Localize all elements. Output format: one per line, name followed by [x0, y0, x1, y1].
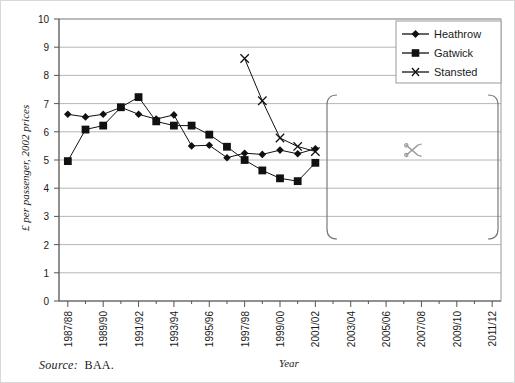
y-tick-label: 10 — [38, 14, 50, 25]
y-tick-label: 5 — [43, 155, 49, 166]
square-marker-icon — [258, 167, 266, 175]
square-marker-icon — [135, 93, 143, 101]
square-marker-icon — [223, 143, 231, 151]
x-tick-label: 1989/90 — [98, 311, 109, 348]
square-marker-icon — [82, 126, 90, 134]
square-marker-icon — [412, 49, 420, 57]
diamond-marker-icon — [276, 146, 284, 154]
x-tick-label: 2003/04 — [346, 311, 357, 348]
scissors-icon[interactable] — [405, 144, 422, 157]
cross-marker-icon — [276, 134, 284, 142]
diamond-marker-icon — [188, 142, 196, 150]
y-tick-label: 4 — [43, 183, 49, 194]
x-tick-label: 1995/96 — [204, 311, 215, 348]
diamond-marker-icon — [294, 150, 302, 158]
diamond-marker-icon — [99, 111, 107, 119]
x-tick-label: 2001/02 — [310, 311, 321, 348]
bracket-right — [488, 95, 498, 239]
x-tick-label: 2007/08 — [416, 311, 427, 348]
x-tick-label: 2011/12 — [487, 311, 498, 347]
diamond-marker-icon — [135, 111, 143, 119]
x-axis-title: Year — [279, 357, 299, 369]
source-prefix: Source: — [39, 358, 78, 372]
x-tick-label: 1997/98 — [240, 311, 251, 348]
diamond-marker-icon — [206, 142, 214, 150]
figure-frame: 10 9 8 7 6 5 4 3 2 1 0 1987/881989/90199… — [0, 0, 515, 383]
x-tick-labels: 1987/881989/901991/921993/941995/961997/… — [63, 311, 498, 348]
square-marker-icon — [152, 117, 160, 125]
diamond-marker-icon — [259, 151, 267, 159]
cross-marker-icon — [240, 54, 248, 62]
source-note: Source: BAA. — [39, 358, 114, 373]
y-tick-label: 3 — [43, 211, 49, 222]
series-heathrow — [64, 104, 319, 162]
y-tick-label: 8 — [43, 70, 49, 81]
y-tick-label: 1 — [43, 268, 49, 279]
y-tick-label: 6 — [43, 127, 49, 138]
legend-label: Heathrow — [434, 28, 481, 40]
square-marker-icon — [64, 157, 72, 165]
x-tick-label: 1993/94 — [169, 311, 180, 348]
x-tick-label: 1991/92 — [134, 311, 145, 348]
x-tick-label: 2009/10 — [452, 311, 463, 348]
legend-label: Stansted — [434, 66, 477, 78]
x-tick-label: 1987/88 — [63, 311, 74, 348]
square-marker-icon — [188, 122, 196, 130]
x-tick-label: 2005/06 — [381, 311, 392, 348]
series-layer — [64, 54, 320, 185]
y-tick-marks — [54, 19, 59, 301]
square-marker-icon — [99, 122, 107, 130]
square-marker-icon — [276, 174, 284, 182]
y-tick-label: 7 — [43, 99, 49, 110]
y-axis-title: £ per passenger, 2002 prices — [19, 105, 31, 231]
y-tick-labels: 10 9 8 7 6 5 4 3 2 1 0 — [38, 14, 50, 307]
x-tick-label: 1999/00 — [275, 311, 286, 348]
diamond-marker-icon — [241, 149, 249, 157]
x-tick-marks — [68, 301, 492, 307]
source-value: BAA. — [85, 358, 115, 372]
square-marker-icon — [117, 103, 125, 111]
cut-region-annotation — [327, 95, 498, 239]
diamond-marker-icon — [170, 111, 178, 119]
diamond-marker-icon — [64, 111, 72, 119]
square-marker-icon — [311, 159, 319, 167]
square-marker-icon — [170, 122, 178, 130]
y-tick-label: 2 — [43, 240, 49, 251]
series-stansted — [240, 54, 319, 155]
square-marker-icon — [241, 156, 249, 164]
square-marker-icon — [294, 177, 302, 185]
legend-label: Gatwick — [434, 47, 474, 59]
y-tick-label: 9 — [43, 42, 49, 53]
diamond-marker-icon — [82, 113, 90, 121]
bracket-left — [327, 95, 337, 239]
line-chart: 10 9 8 7 6 5 4 3 2 1 0 1987/881989/90199… — [1, 1, 514, 382]
legend: Heathrow Gatwick Stansted — [396, 21, 501, 83]
y-tick-label: 0 — [43, 296, 49, 307]
cross-marker-icon — [293, 142, 301, 150]
square-marker-icon — [205, 131, 213, 139]
